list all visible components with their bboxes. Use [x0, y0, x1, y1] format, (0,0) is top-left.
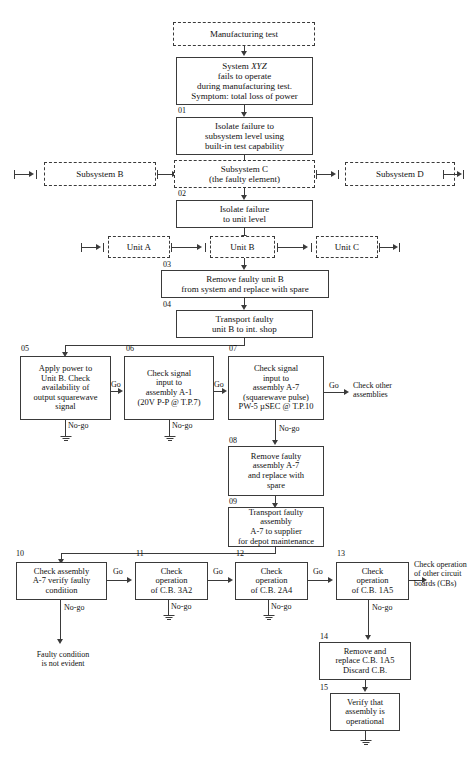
terminal-faulty-not-evident: Faulty conditionis not evident	[20, 650, 106, 669]
node-label: Verify thatassembly isoperational	[334, 698, 396, 727]
chain-nib-unitC-in	[311, 243, 312, 252]
connector-07-to-other-assemblies	[324, 392, 346, 393]
node-label: Apply power toUnit B. Checkavailability …	[24, 364, 107, 412]
arrowhead-down-icon	[57, 639, 63, 644]
arrowhead-down-icon	[272, 440, 278, 445]
node-step-09: Transport faulty assemblyA-7 to supplier…	[228, 507, 324, 547]
edge-label-nogo-11: No-go	[171, 602, 191, 611]
connector-11-nogo	[168, 600, 169, 615]
node-label: Checkoperationof C.B. 2A4	[239, 567, 304, 596]
node-unit-b: Unit B	[210, 236, 275, 258]
node-step-05: Apply power toUnit B. Checkavailability …	[20, 356, 111, 420]
node-step-14: Remove andreplace C.B. 1A5Discard C.B.	[319, 642, 411, 680]
node-subsystem-d: Subsystem D	[345, 162, 455, 186]
connector-11-to-12	[208, 580, 229, 581]
node-step-12: Checkoperationof C.B. 2A4	[235, 562, 308, 600]
edge-label-nogo-12: No-go	[271, 602, 291, 611]
chain-end-stub-units	[399, 243, 400, 252]
connector-10-to-11	[107, 580, 129, 581]
node-step-10: Check assemblyA-7 verify faultycondition	[16, 562, 107, 600]
arrowhead-right-icon	[222, 388, 227, 394]
step-number-13: 13	[337, 550, 345, 558]
connector-unitA-to-unitB	[171, 247, 199, 248]
step-number-02: 02	[178, 190, 186, 198]
step-number-10: 10	[16, 550, 24, 558]
node-label: Check signalinput toassembly A-7(squarew…	[232, 364, 320, 412]
connector-bus-to-05	[65, 345, 245, 346]
node-label: Checkoperationof C.B. 1A5	[340, 567, 405, 596]
chain-nib-subsysB	[36, 170, 37, 179]
node-step-13: Checkoperationof C.B. 1A5	[336, 562, 409, 600]
connector-06-nogo	[169, 420, 170, 436]
node-label: Isolate failureto unit level	[180, 204, 309, 224]
node-step-03: Remove faulty unit Bfrom system and repl…	[161, 270, 329, 298]
terminator-ground-icon	[360, 740, 371, 747]
node-subsystem-b: Subsystem B	[44, 162, 156, 186]
terminator-ground-icon	[164, 436, 175, 443]
arrowhead-right-icon	[197, 244, 202, 250]
edge-label-go-11-12: Go	[213, 567, 223, 576]
node-manufacturing-test: Manufacturing test	[173, 22, 315, 46]
node-label: Checkoperationof C.B. 3A2	[139, 567, 204, 596]
node-step-02: Isolate failureto unit level	[176, 200, 313, 228]
node-label: Manufacturing test	[177, 29, 311, 39]
terminator-ground-icon	[163, 615, 174, 622]
arrowhead-right-icon	[228, 577, 233, 583]
connector-10-nogo	[60, 600, 61, 642]
node-system-xyz: System XYZfails to operateduring manufac…	[176, 57, 313, 105]
node-label: Remove andreplace C.B. 1A5Discard C.B.	[323, 647, 407, 676]
step-number-08: 08	[229, 437, 237, 445]
edge-label-go-10-11: Go	[113, 567, 123, 576]
arrowhead-right-icon	[331, 171, 336, 177]
edge-label-go-12-13: Go	[313, 567, 323, 576]
node-label: Remove faultyassembly A-7and replace wit…	[232, 452, 320, 490]
terminal-check-other-assemblies: Check otherassemblies	[353, 381, 439, 400]
arrowhead-down-icon	[365, 635, 371, 640]
arrowhead-down-icon	[362, 687, 368, 692]
node-label: Transport faulty assemblyA-7 to supplier…	[232, 508, 320, 546]
node-step-11: Checkoperationof C.B. 3A2	[135, 562, 208, 600]
edge-label-nogo-05: No-go	[68, 421, 88, 430]
node-label: Check assemblyA-7 verify faultycondition	[20, 567, 103, 596]
chain-end-stub-subsystems	[463, 170, 464, 179]
arrowhead-right-icon	[328, 577, 333, 583]
terminal-check-other-cbs: Check operationof other circuitboards (C…	[414, 560, 475, 588]
node-subsystem-c: Subsystem C(the faulty element)	[174, 160, 315, 188]
node-unit-c: Unit C	[316, 236, 378, 258]
node-step-04: Transport faultyunit B to int. shop	[176, 310, 313, 338]
edge-label-nogo-10: No-go	[64, 603, 84, 612]
arrowhead-right-icon	[127, 577, 132, 583]
step-number-07: 07	[229, 345, 237, 353]
node-unit-a: Unit A	[108, 236, 170, 258]
arrowhead-right-icon	[393, 244, 398, 250]
connector-stub-to-subsysB	[14, 174, 30, 175]
connector-04-down	[244, 338, 245, 345]
node-label: Subsystem B	[48, 169, 152, 179]
connector-13-to-14	[368, 600, 369, 638]
edge-label-go-07-out: Go	[329, 381, 339, 390]
edge-label-nogo-13: No-go	[372, 603, 392, 612]
node-label: Unit B	[214, 242, 271, 252]
connector-05-nogo	[65, 420, 66, 436]
edge-label-nogo-07: No-go	[279, 424, 299, 433]
arrowhead-right-icon	[29, 171, 34, 177]
arrowhead-right-icon	[344, 389, 349, 395]
node-label: Transport faultyunit B to int. shop	[180, 314, 309, 334]
node-label: Unit C	[320, 242, 374, 252]
flowchart-canvas: Manufacturing test System XYZfails to op…	[0, 0, 475, 768]
arrowhead-down-icon	[241, 51, 247, 56]
step-number-09: 09	[229, 498, 237, 506]
step-number-06: 06	[126, 345, 134, 353]
arrowhead-right-icon	[303, 244, 308, 250]
node-label: Subsystem C(the faulty element)	[178, 164, 311, 184]
node-label: System XYZfails to operateduring manufac…	[180, 61, 309, 101]
step-number-03: 03	[163, 261, 171, 269]
node-label: Check signalinput toassembly A-1(20V P-P…	[128, 369, 210, 407]
step-number-05: 05	[21, 345, 29, 353]
arrowhead-right-icon	[96, 244, 101, 250]
step-number-01: 01	[178, 107, 186, 115]
node-label: Unit A	[112, 242, 166, 252]
connector-12-to-13	[308, 580, 330, 581]
step-number-12: 12	[236, 550, 244, 558]
node-label: Subsystem D	[349, 169, 451, 179]
